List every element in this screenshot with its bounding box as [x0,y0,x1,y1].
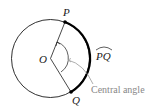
angle-arc [57,42,68,72]
label-p: P [62,6,70,18]
arc-pq [65,22,90,92]
label-q: Q [72,94,80,106]
radius-op [51,22,66,59]
central-angle-diagram: P Q O PQ Central angle [0,0,158,109]
point-p [63,20,67,24]
label-o: O [39,53,47,65]
central-angle-caption: Central angle [91,84,145,95]
angle-arrowhead-icon [56,42,60,46]
label-arc-pq: PQ [95,50,111,62]
